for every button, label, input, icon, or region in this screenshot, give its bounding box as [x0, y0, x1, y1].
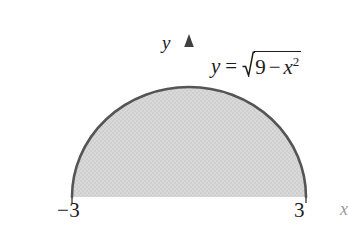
semicircle-plot: [0, 0, 348, 230]
x-tick-label-three: 3: [294, 200, 305, 221]
equation-lhs: y: [211, 50, 220, 79]
radicand-exponent: 2: [293, 54, 300, 69]
radical-expression: 9−x2: [242, 50, 301, 79]
equation-relation: =: [220, 50, 242, 79]
x-axis-label: x: [340, 200, 348, 218]
y-axis-label: y: [162, 33, 170, 52]
radicand-variable: x: [284, 55, 293, 79]
radicand-minus-sign: −: [266, 55, 284, 79]
figure-container: y −3 3 x y = 9−x2: [0, 0, 348, 230]
equation-annotation: y = 9−x2: [211, 50, 301, 79]
radicand-constant: 9: [255, 55, 266, 79]
y-axis-arrow-icon: [184, 34, 194, 47]
radicand: 9−x2: [254, 51, 301, 80]
x-tick-label-negative-three: −3: [57, 200, 80, 221]
